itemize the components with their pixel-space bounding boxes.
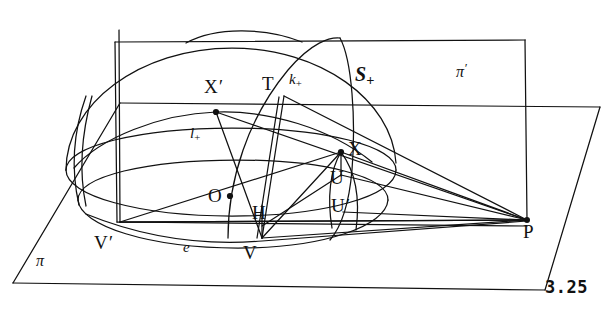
- label-U: U: [330, 168, 344, 187]
- label-H: H: [252, 203, 266, 222]
- label-V: V: [243, 243, 257, 262]
- label-O: O: [208, 186, 222, 205]
- label-plane-pi: π: [36, 253, 44, 269]
- figure-number: 3.25: [545, 279, 588, 296]
- label-k-plus: k+: [289, 72, 302, 89]
- label-e: e: [183, 240, 190, 255]
- label-U-prime: U′: [331, 196, 349, 215]
- label-plane-pi-prime: π′: [456, 62, 467, 80]
- label-X: X: [348, 139, 362, 158]
- axis-V-prime: [119, 30, 120, 222]
- label-X-prime: X′: [204, 77, 222, 96]
- label-P: P: [523, 222, 534, 241]
- curve-U-lens: [330, 152, 358, 230]
- marker-X: [338, 149, 344, 155]
- label-l-plus: l+: [190, 126, 200, 143]
- figure-container: X′ T k+ S+ π′ l+ X O U U′ H V′ e V P π 3…: [0, 0, 606, 317]
- line-e-trace: [86, 214, 527, 242]
- marker-X-prime: [213, 109, 219, 115]
- marker-O: [227, 193, 233, 199]
- label-T: T: [262, 74, 274, 93]
- label-S-plus: S+: [355, 64, 374, 87]
- construction-chords: [117, 112, 527, 238]
- diagram-svg: [0, 0, 606, 317]
- plane-pi-outline: [13, 103, 600, 290]
- label-V-prime: V′: [94, 233, 112, 252]
